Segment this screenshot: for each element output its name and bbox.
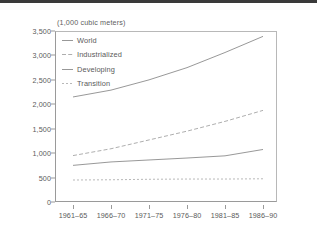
legend-line-icon bbox=[62, 66, 73, 73]
series-line bbox=[73, 179, 263, 180]
legend-item[interactable]: World bbox=[62, 33, 162, 48]
x-tick-label: 1966–70 bbox=[97, 211, 126, 220]
y-tick-label: 3,500 bbox=[33, 27, 52, 36]
legend-item[interactable]: Industrialized bbox=[62, 48, 162, 63]
top-divider bbox=[0, 0, 317, 3]
x-tick-mark bbox=[111, 205, 112, 209]
y-axis: 05001,0001,5002,0002,5003,0003,500 bbox=[0, 31, 51, 202]
x-tick-label: 1986–90 bbox=[249, 211, 278, 220]
x-tick-label: 1976–80 bbox=[173, 211, 202, 220]
legend-line-icon bbox=[62, 80, 73, 87]
series-line bbox=[73, 149, 263, 165]
chart-title: (1,000 cubic meters) bbox=[57, 18, 126, 27]
y-tick-label: 1,500 bbox=[33, 124, 52, 133]
x-tick-mark bbox=[263, 205, 264, 209]
series-line bbox=[73, 110, 263, 155]
legend-label: World bbox=[77, 36, 97, 45]
legend-line-icon bbox=[62, 51, 73, 58]
x-tick-mark bbox=[187, 205, 188, 209]
x-tick-mark bbox=[73, 205, 74, 209]
legend-item[interactable]: Developing bbox=[62, 62, 162, 77]
x-axis: 1961–651966–701971–751976–801981–851986–… bbox=[55, 205, 277, 221]
legend-label: Transition bbox=[77, 79, 110, 88]
legend-line-icon bbox=[62, 37, 73, 44]
y-tick-label: 1,000 bbox=[33, 149, 52, 158]
chart-figure: (1,000 cubic meters) 05001,0001,5002,000… bbox=[0, 0, 317, 230]
y-tick-label: 3,000 bbox=[33, 51, 52, 60]
x-tick-label: 1961–65 bbox=[59, 211, 88, 220]
x-tick-mark bbox=[225, 205, 226, 209]
chart-legend: WorldIndustrializedDevelopingTransition bbox=[62, 33, 162, 91]
x-tick-mark bbox=[149, 205, 150, 209]
y-tick-label: 2,500 bbox=[33, 75, 52, 84]
legend-label: Industrialized bbox=[77, 50, 122, 59]
legend-label: Developing bbox=[77, 65, 115, 74]
y-tick-label: 500 bbox=[39, 173, 51, 182]
y-tick-label: 2,000 bbox=[33, 100, 52, 109]
legend-item[interactable]: Transition bbox=[62, 77, 162, 92]
x-tick-label: 1981–85 bbox=[211, 211, 240, 220]
x-tick-label: 1971–75 bbox=[135, 211, 164, 220]
